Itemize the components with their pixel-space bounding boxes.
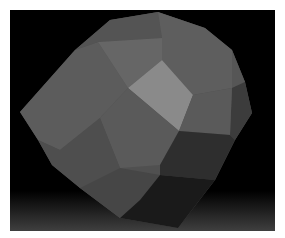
face-right-top [232,50,245,88]
face-right [230,82,252,140]
render-frame [10,10,275,231]
polyhedron [10,10,275,231]
